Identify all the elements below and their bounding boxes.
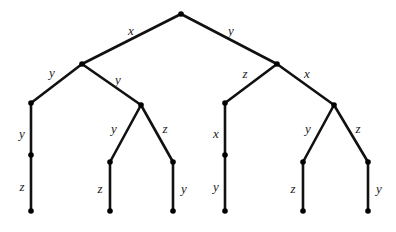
edge-label: z: [290, 182, 295, 195]
tree-internal-node: [107, 159, 113, 165]
edge-label: x: [128, 24, 134, 37]
tree-internal-node: [178, 11, 184, 17]
edge-label: x: [304, 67, 310, 80]
tree-leaf-node: [300, 208, 306, 214]
edge-label: x: [213, 127, 219, 140]
edge-label: z: [242, 67, 247, 80]
edge-label: y: [228, 24, 234, 37]
edge-label: y: [213, 180, 219, 193]
tree-internal-node: [274, 61, 280, 67]
edge-label: y: [111, 122, 117, 135]
tree-internal-node: [28, 100, 34, 106]
edge-label: y: [376, 182, 382, 195]
tree-internal-node: [138, 102, 144, 108]
tree-leaf-node: [222, 208, 228, 214]
edge-label: z: [19, 180, 24, 193]
tree-edge: [225, 64, 277, 103]
tree-canvas: [0, 0, 396, 232]
tree-leaf-node: [365, 208, 371, 214]
edge-label: z: [97, 182, 102, 195]
edge-label: z: [355, 122, 360, 135]
tree-internal-node: [222, 100, 228, 106]
tree-edge: [82, 14, 181, 64]
tree-internal-node: [365, 159, 371, 165]
edge-label: y: [305, 122, 311, 135]
tree-edge: [82, 64, 141, 105]
tree-internal-node: [79, 61, 85, 67]
edge-label: y: [49, 66, 55, 79]
tree-leaf-node: [107, 208, 113, 214]
tree-diagram: xyyyzxyzyzzyxyyzzy: [0, 0, 396, 232]
tree-edge: [181, 14, 277, 64]
edge-label: y: [115, 73, 121, 86]
edge-label: y: [181, 182, 187, 195]
tree-edge: [31, 64, 82, 103]
tree-edge: [334, 105, 368, 162]
nodes-group: [28, 11, 371, 214]
edge-label: z: [162, 122, 167, 135]
edge-label: y: [19, 127, 25, 140]
tree-internal-node: [222, 152, 228, 158]
edges-group: [31, 14, 368, 211]
tree-internal-node: [170, 159, 176, 165]
tree-internal-node: [28, 152, 34, 158]
tree-edge: [141, 105, 173, 162]
tree-leaf-node: [28, 208, 34, 214]
tree-internal-node: [300, 159, 306, 165]
tree-leaf-node: [170, 208, 176, 214]
tree-internal-node: [331, 102, 337, 108]
